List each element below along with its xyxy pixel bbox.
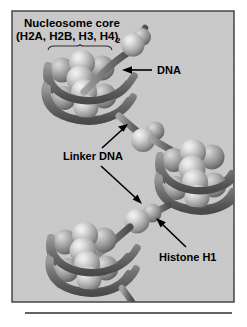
title-line-1: Nucleosome core — [24, 17, 120, 29]
figure-title: Nucleosome core (H2A, H2B, H3, H4) 2 — [16, 17, 121, 45]
histone-h1-label: Histone H1 — [159, 251, 216, 263]
linker-dna-label: Linker DNA — [63, 150, 123, 162]
title-subscript: 2 — [116, 36, 121, 45]
nucleosome-diagram-figure: Nucleosome core (H2A, H2B, H3, H4) 2 DNA… — [0, 0, 247, 327]
title-line-2: (H2A, H2B, H3, H4) — [16, 30, 118, 42]
dna-label: DNA — [157, 64, 181, 76]
